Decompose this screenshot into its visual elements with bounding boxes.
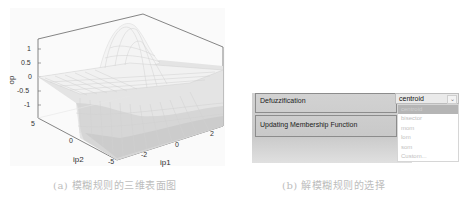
option-custom[interactable]: Custom... — [398, 152, 458, 161]
fis-editor-panel: Defuzzification Updating Membership Func… — [252, 93, 412, 163]
ip2-tick-5: 5 — [31, 120, 35, 127]
option-bisector[interactable]: bisector — [398, 114, 458, 123]
z-tick-0-5: 0.5 — [21, 59, 31, 66]
z-tick-1: 1 — [27, 45, 31, 52]
defuzz-group: Defuzzification — [255, 93, 397, 113]
defuzz-dropdown-list: centroid bisector mom lom som Custom... — [397, 104, 459, 162]
z-tick-neg-1: -1 — [24, 101, 30, 108]
defuzz-label: Defuzzification — [260, 97, 306, 104]
caption-b: (b) 解模糊规则的选择 — [282, 177, 385, 192]
surface-plot: 1 0.5 0 -0.5 -1 op 5 0 -5 ip2 -2 0 2 ip1 — [10, 8, 225, 166]
ip1-tick-0: 0 — [175, 141, 179, 148]
option-mom[interactable]: mom — [398, 124, 458, 133]
ip2-axis-label: ip2 — [73, 156, 84, 164]
ip2-tick-neg-5: -5 — [108, 158, 114, 165]
caption-a: (a) 模糊规则的三维表面图 — [53, 177, 177, 192]
surface-plot-graphic — [10, 8, 225, 166]
defuzz-select[interactable]: centroid ⌄ — [395, 93, 459, 104]
z-tick-neg-0-5: -0.5 — [17, 87, 29, 94]
ip1-tick-2: 2 — [210, 130, 214, 137]
update-mf-label[interactable]: Updating Membership Function — [260, 121, 357, 128]
defuzz-select-value: centroid — [399, 95, 424, 102]
option-som[interactable]: som — [398, 143, 458, 152]
update-group: Updating Membership Function — [255, 115, 397, 137]
ip2-tick-0: 0 — [69, 137, 73, 144]
option-centroid[interactable]: centroid — [398, 105, 458, 114]
option-lom[interactable]: lom — [398, 133, 458, 142]
ip1-tick-neg-2: -2 — [141, 151, 147, 158]
chevron-down-icon[interactable]: ⌄ — [447, 95, 457, 104]
ip1-axis-label: ip1 — [160, 159, 171, 167]
z-axis-label: op — [8, 76, 16, 85]
z-tick-0: 0 — [28, 73, 32, 80]
